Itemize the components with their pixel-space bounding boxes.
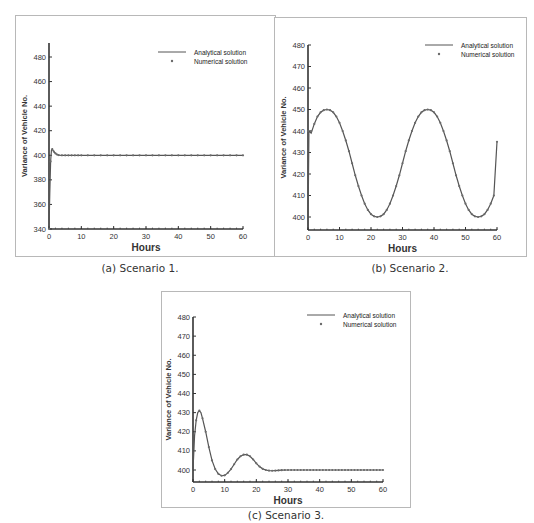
numerical-marker [464,203,466,205]
numerical-marker [319,469,321,471]
charts-layer: 0102030405060340360380400420440460480Hou… [0,0,534,523]
numerical-marker [341,469,343,471]
numerical-marker [306,469,308,471]
numerical-marker [307,130,309,132]
numerical-marker [61,154,63,156]
y-tick-label: 380 [33,175,46,184]
numerical-marker [246,454,248,456]
numerical-marker [80,154,82,156]
numerical-marker [367,209,369,211]
y-tick-label: 450 [292,105,305,114]
numerical-marker [53,151,55,153]
numerical-marker [158,154,160,156]
numerical-marker [190,154,192,156]
numerical-marker [430,109,432,111]
numerical-marker [198,410,200,412]
y-tick-label: 410 [292,191,305,200]
numerical-marker [493,194,495,196]
numerical-marker [423,109,425,111]
numerical-marker [287,469,289,471]
numerical-marker [258,465,260,467]
numerical-marker [344,469,346,471]
numerical-marker [442,130,444,132]
legend-analytical: Analytical solution [461,42,513,50]
numerical-marker [309,469,311,471]
y-tick-label: 430 [292,148,305,157]
y-tick-label: 460 [177,351,190,360]
numerical-marker [382,469,384,471]
y-axis-label: Variance of Vehicle No. [164,358,173,440]
numerical-marker [233,463,235,465]
x-tick-label: 30 [284,485,292,494]
numerical-marker [229,154,231,156]
y-tick-label: 340 [33,225,46,234]
x-tick-label: 0 [47,232,51,241]
x-tick-label: 50 [347,485,355,494]
numerical-marker [363,469,365,471]
numerical-marker [468,209,470,211]
numerical-marker [373,215,375,217]
y-tick-label: 460 [33,77,46,86]
y-tick-label: 400 [33,151,46,160]
y-tick-label: 360 [33,200,46,209]
numerical-marker [223,154,225,156]
x-tick-label: 0 [306,233,310,242]
x-tick-label: 60 [239,232,247,241]
numerical-marker [329,109,331,111]
numerical-marker [386,209,388,211]
numerical-marker [338,122,340,124]
y-tick-label: 400 [177,466,190,475]
numerical-marker [119,154,121,156]
y-tick-label: 400 [292,213,305,222]
numerical-marker [113,154,115,156]
numerical-marker [315,469,317,471]
numerical-marker [145,154,147,156]
numerical-marker [372,469,374,471]
numerical-marker [77,154,79,156]
numerical-marker [376,216,378,218]
numerical-marker [411,130,413,132]
y-tick-label: 440 [33,102,46,111]
numerical-marker [271,470,273,472]
numerical-marker [417,115,419,117]
numerical-marker [217,473,219,475]
x-axis-label: Hours [132,242,161,253]
numerical-marker [461,194,463,196]
numerical-marker [74,154,76,156]
numerical-marker [420,111,422,113]
numerical-marker [383,213,385,215]
numerical-marker [449,150,451,152]
numerical-marker [262,468,264,470]
numerical-marker [300,469,302,471]
numerical-marker [477,216,479,218]
numerical-marker [203,154,205,156]
numerical-marker [195,419,197,421]
numerical-marker [290,469,292,471]
x-tick-label: 10 [335,233,343,242]
numerical-marker [389,203,391,205]
numerical-marker [205,431,207,433]
x-tick-label: 10 [220,485,228,494]
x-tick-label: 20 [109,232,117,241]
x-tick-label: 40 [174,232,182,241]
numerical-marker [395,185,397,187]
y-tick-label: 430 [177,408,190,417]
y-tick-label: 470 [177,332,190,341]
numerical-marker [446,139,448,141]
numerical-marker [354,174,356,176]
chart-c: 0102030405060400410420430440450460470480… [164,312,397,507]
legend-marker-swatch [320,323,322,325]
x-tick-label: 0 [191,485,195,494]
y-tick-label: 420 [33,126,46,135]
numerical-marker [126,154,128,156]
numerical-marker [379,215,381,217]
numerical-marker [71,154,73,156]
numerical-marker [328,469,330,471]
numerical-marker [177,154,179,156]
numerical-marker [376,469,378,471]
numerical-marker [348,150,350,152]
chart-b: 0102030405060400410420430440450460470480… [279,41,515,255]
x-tick-label: 60 [493,233,501,242]
numerical-marker [490,203,492,205]
numerical-marker [325,469,327,471]
